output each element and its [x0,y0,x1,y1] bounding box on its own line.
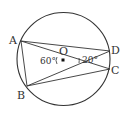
label-a: A [8,34,18,47]
angle-label-doc: 20° [82,55,98,65]
angle-label-aob: 60° [40,56,56,66]
label-o: O [59,45,68,58]
circle-diagram: A B C D O 60° 20° [0,0,126,115]
label-c: C [111,64,119,77]
diagram-canvas: A B C D O 60° 20° [0,0,126,115]
label-b: B [17,89,25,102]
angle-arc-aob [56,57,57,64]
center-point [62,59,65,62]
label-d: D [111,44,120,57]
segment-bc [27,69,110,86]
